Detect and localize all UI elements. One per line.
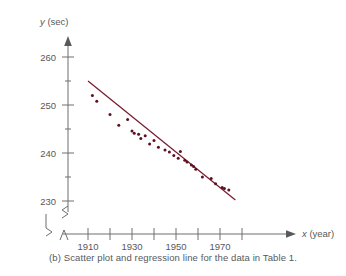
data-point [168, 151, 171, 154]
origin-break-icon [46, 214, 52, 236]
data-point [131, 129, 134, 132]
regression-line-path [88, 81, 235, 200]
y-axis-title: y (sec) [39, 16, 69, 27]
data-point [95, 100, 98, 103]
data-point [214, 182, 217, 185]
data-point [177, 157, 180, 160]
y-axis-break-icon [62, 206, 68, 218]
y-tick-label-230: 230 [40, 196, 56, 207]
data-point [223, 187, 226, 190]
x-tick-label-1930: 1930 [121, 241, 142, 252]
x-tick-label-1910: 1910 [77, 241, 98, 252]
data-point [91, 94, 94, 97]
x-axis-arrowhead [286, 230, 296, 238]
data-point [117, 124, 120, 127]
data-point [194, 168, 197, 171]
data-point [157, 146, 160, 149]
figure-caption: (b) Scatter plot and regression line for… [0, 252, 346, 263]
data-point [227, 188, 230, 191]
data-point [148, 142, 151, 145]
data-point [179, 150, 182, 153]
data-point [210, 177, 213, 180]
data-point [164, 149, 167, 152]
data-point [153, 139, 156, 142]
y-axis [62, 36, 72, 218]
x-axis [46, 214, 296, 240]
data-points-group [91, 94, 230, 192]
data-point [201, 176, 204, 179]
data-point [144, 134, 147, 137]
scatter-plot-figure: y (sec) 260 250 240 230 [0, 0, 346, 276]
data-point [192, 165, 195, 168]
data-point [172, 154, 175, 157]
y-axis-arrowhead [64, 36, 72, 46]
x-tick-label-1970: 1970 [209, 241, 230, 252]
data-point [109, 113, 112, 116]
data-point [139, 137, 142, 140]
x-axis-tick-labels: 1910 1930 1950 1970 [77, 241, 230, 252]
data-point [126, 118, 129, 121]
data-point [137, 133, 140, 136]
y-axis-tick-labels: 260 250 240 230 [40, 52, 56, 207]
data-point [133, 132, 136, 135]
x-tick-label-1950: 1950 [165, 241, 186, 252]
y-tick-label-260: 260 [40, 52, 56, 63]
y-tick-label-250: 250 [40, 100, 56, 111]
plot-canvas: y (sec) 260 250 240 230 [0, 0, 346, 276]
x-axis-break-icon [60, 230, 68, 240]
regression-line [88, 81, 235, 200]
y-tick-label-240: 240 [40, 148, 56, 159]
x-axis-title: x (year) [301, 228, 334, 239]
data-point [186, 161, 189, 164]
